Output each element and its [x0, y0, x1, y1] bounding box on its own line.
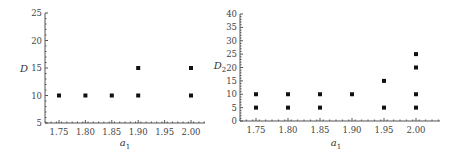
data-point	[136, 94, 140, 98]
y-tick-label: 35	[226, 22, 237, 32]
x-tick-label: 2.00	[407, 125, 426, 135]
chart-right-d2-vs-a1: 05101520253035401.751.801.851.901.952.00…	[213, 9, 440, 151]
data-point	[318, 106, 322, 110]
x-tick-label: 1.90	[343, 125, 362, 135]
data-point	[83, 94, 87, 98]
y-tick-label: 5	[37, 118, 42, 128]
data-point	[136, 66, 140, 70]
x-tick-label: 1.95	[155, 127, 174, 137]
data-point	[414, 66, 418, 70]
data-point	[286, 92, 290, 96]
y-tick-label: 30	[226, 36, 237, 46]
data-point	[189, 66, 193, 70]
x-tick-label: 1.80	[76, 127, 95, 137]
y-tick-label: 25	[226, 49, 237, 59]
y-axis-label: D	[19, 63, 28, 74]
x-tick-label: 1.80	[279, 125, 298, 135]
x-tick-label: 1.90	[129, 127, 148, 137]
data-point	[110, 94, 114, 98]
data-point	[286, 106, 290, 110]
data-point	[318, 92, 322, 96]
data-point	[382, 106, 386, 110]
x-tick-label: 1.75	[50, 127, 69, 137]
data-point	[382, 79, 386, 83]
y-tick-label: 15	[31, 63, 42, 73]
data-point	[414, 106, 418, 110]
data-point	[57, 94, 61, 98]
y-tick-label: 10	[31, 91, 42, 101]
x-tick-label: 2.00	[182, 127, 201, 137]
y-tick-label: 40	[226, 9, 237, 19]
x-axis-label: a1	[120, 137, 130, 151]
data-point	[414, 52, 418, 56]
data-point	[414, 92, 418, 96]
x-tick-label: 1.85	[311, 125, 330, 135]
y-tick-label: 20	[226, 63, 237, 73]
y-tick-label: 25	[31, 8, 42, 18]
y-axis-label-subscript: 2	[222, 66, 226, 74]
chart-left-d-vs-a1: 5101520251.751.801.851.901.952.00Da1	[19, 8, 205, 151]
data-point	[254, 92, 258, 96]
x-tick-label: 1.75	[247, 125, 266, 135]
data-point	[254, 106, 258, 110]
data-point	[350, 92, 354, 96]
x-tick-label: 1.85	[102, 127, 121, 137]
x-axis-label-subscript: 1	[337, 143, 341, 151]
data-point	[189, 94, 193, 98]
y-tick-label: 0	[232, 116, 237, 126]
y-tick-label: 20	[31, 36, 42, 46]
y-tick-label: 10	[226, 89, 237, 99]
x-tick-label: 1.95	[375, 125, 394, 135]
y-tick-label: 15	[226, 76, 237, 86]
figure: 5101520251.751.801.851.901.952.00Da1 051…	[0, 0, 452, 156]
y-tick-label: 5	[232, 103, 237, 113]
y-axis-label: D2	[213, 60, 227, 74]
x-axis-label: a1	[331, 137, 341, 151]
x-axis-label-subscript: 1	[126, 143, 130, 151]
